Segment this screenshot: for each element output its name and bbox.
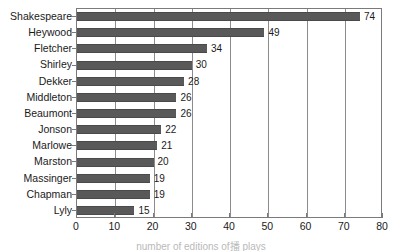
bar-value-label: 19 [154, 188, 165, 201]
bar-value-label: 34 [211, 42, 222, 55]
category-axis-labels: ShakespeareHeywoodFletcherShirleyDekkerM… [0, 8, 72, 218]
value-tick-mark-20 [153, 213, 154, 218]
bar-marlowe [77, 141, 157, 150]
bar-row: 34 [77, 41, 381, 57]
chart-caption-text: number of editions of播 plays [0, 241, 402, 251]
category-label-dekker: Dekker [39, 73, 72, 89]
value-tick-mark-80 [382, 213, 383, 218]
category-label-heywood: Heywood [28, 24, 72, 40]
value-tick-label-30: 30 [185, 219, 197, 233]
value-tick-label-60: 60 [300, 219, 312, 233]
bar-jonson [77, 125, 161, 134]
value-tick-mark-50 [267, 213, 268, 218]
bar-shirley [77, 61, 192, 70]
category-label-lyly: Lyly [54, 202, 72, 218]
bar-row: 26 [77, 106, 381, 122]
category-label-middleton: Middleton [26, 89, 72, 105]
category-label-massinger: Massinger [24, 170, 72, 186]
bar-row: 20 [77, 154, 381, 170]
bar-row: 49 [77, 25, 381, 41]
bar-middleton [77, 93, 176, 102]
value-tick-label-50: 50 [261, 219, 273, 233]
bar-value-label: 28 [188, 75, 199, 88]
category-label-marston: Marston [34, 153, 72, 169]
value-tick-mark-0 [76, 213, 77, 218]
bar-value-label: 49 [268, 26, 279, 39]
bar-fletcher [77, 44, 207, 53]
category-label-jonson: Jonson [38, 121, 72, 137]
bar-chapman [77, 190, 150, 199]
bar-massinger [77, 174, 150, 183]
plot-area: 74493430282626222120191915 [76, 8, 382, 218]
bar-row: 21 [77, 138, 381, 154]
bar-row: 30 [77, 57, 381, 73]
bar-heywood [77, 28, 264, 37]
bar-value-label: 26 [180, 91, 191, 104]
value-tick-label-80: 80 [376, 219, 388, 233]
category-label-beaumont: Beaumont [24, 105, 72, 121]
value-axis-ticks: 01020304050607080 [0, 219, 402, 235]
category-label-shakespeare: Shakespeare [10, 8, 72, 24]
bar-row: 19 [77, 187, 381, 203]
bar-marston [77, 158, 154, 167]
bar-shakespeare [77, 12, 360, 21]
bar-row: 26 [77, 90, 381, 106]
category-label-marlowe: Marlowe [32, 137, 72, 153]
category-label-chapman: Chapman [26, 186, 72, 202]
bar-value-label: 20 [158, 155, 169, 168]
bar-dekker [77, 77, 184, 86]
value-tick-label-70: 70 [338, 219, 350, 233]
bar-value-label: 19 [154, 172, 165, 185]
bar-value-label: 22 [165, 123, 176, 136]
bar-row: 22 [77, 122, 381, 138]
bar-chart: ShakespeareHeywoodFletcherShirleyDekkerM… [0, 0, 402, 251]
bar-value-label: 21 [161, 139, 172, 152]
value-tick-label-0: 0 [73, 219, 79, 233]
bar-value-label: 26 [180, 107, 191, 120]
bar-row: 19 [77, 171, 381, 187]
value-tick-mark-60 [306, 213, 307, 218]
value-tick-label-20: 20 [147, 219, 159, 233]
chart-caption: number of editions of播 plays [0, 241, 402, 251]
bar-value-label: 15 [138, 204, 149, 217]
bar-value-label: 74 [364, 10, 375, 23]
category-label-shirley: Shirley [40, 56, 72, 72]
bar-value-label: 30 [196, 58, 207, 71]
bar-beaumont [77, 109, 176, 118]
bar-row: 28 [77, 74, 381, 90]
bar-lyly [77, 206, 134, 215]
value-tick-mark-70 [344, 213, 345, 218]
value-tick-label-40: 40 [223, 219, 235, 233]
value-tick-mark-30 [191, 213, 192, 218]
category-label-fletcher: Fletcher [34, 40, 72, 56]
value-tick-mark-10 [114, 213, 115, 218]
value-tick-label-10: 10 [108, 219, 120, 233]
bar-series: 74493430282626222120191915 [77, 9, 381, 217]
bar-row: 74 [77, 9, 381, 25]
value-tick-mark-40 [229, 213, 230, 218]
